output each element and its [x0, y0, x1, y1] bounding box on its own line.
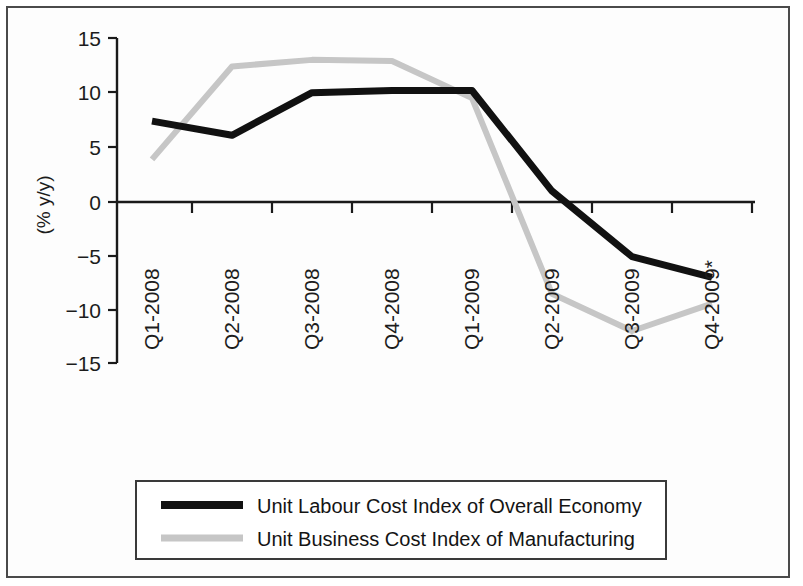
- y-tick-label-10: 10: [78, 81, 101, 104]
- y-tick-label-15: 15: [78, 27, 101, 50]
- y-tick-label-neg15: −15: [65, 352, 101, 375]
- y-tick-label-0: 0: [89, 191, 101, 214]
- y-tick-marks: [108, 38, 117, 363]
- x-tick-label: Q4-2009*: [700, 260, 723, 350]
- x-tick-label: Q1-2008: [140, 268, 163, 350]
- x-tick-label: Q3-2008: [300, 268, 323, 350]
- y-tick-label-neg5: −5: [77, 245, 101, 268]
- y-axis-title: (% y/y): [33, 175, 54, 234]
- x-tick-label: Q1-2009: [460, 268, 483, 350]
- series-line-unit-labour-cost: [152, 90, 712, 277]
- x-tick-label: Q3-2009: [620, 268, 643, 350]
- x-tick-label: Q2-2009: [540, 268, 563, 350]
- y-tick-label-5: 5: [89, 136, 101, 159]
- x-axis-labels: Q1-2008Q2-2008Q3-2008Q4-2008Q1-2009Q2-20…: [140, 260, 723, 350]
- x-tick-label: Q4-2008: [380, 268, 403, 350]
- y-tick-label-neg10: −10: [65, 299, 101, 322]
- line-chart: 15 10 5 0 −5 −10 −15 (% y/y) Q1-2008Q2-2…: [0, 0, 803, 586]
- series-polyline: [152, 90, 712, 277]
- x-tick-marks: [192, 202, 752, 213]
- chart-page: 15 10 5 0 −5 −10 −15 (% y/y) Q1-2008Q2-2…: [0, 0, 803, 586]
- x-tick-label: Q2-2008: [220, 268, 243, 350]
- legend-label-unit-labour-cost: Unit Labour Cost Index of Overall Econom…: [257, 495, 642, 517]
- legend-label-unit-business-cost: Unit Business Cost Index of Manufacturin…: [257, 528, 635, 550]
